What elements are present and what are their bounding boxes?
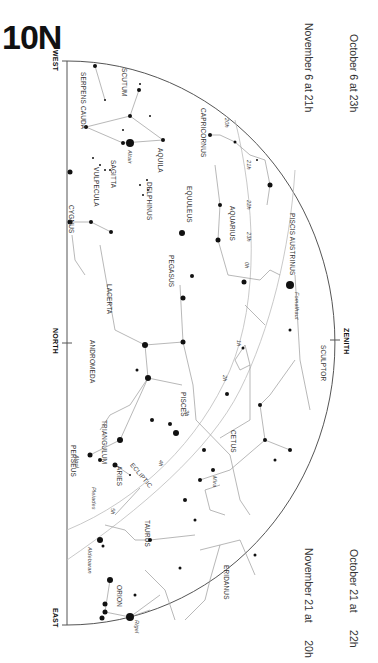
label-cygnus: CYGNUS: [68, 205, 75, 234]
ecliptic-lines: [67, 120, 295, 560]
label-capricornus: CAPRICORNUS: [200, 108, 207, 157]
star-aldebaran: Aldebaran: [87, 547, 93, 574]
label-orion: ORION: [116, 585, 123, 607]
label-sculptor: SCULPTOR: [320, 345, 327, 381]
ecliptic-mark: 1h: [236, 340, 242, 347]
label-cetus: CETUS: [230, 430, 237, 453]
label-equuleus: EQUULEUS: [186, 186, 193, 223]
label-sagitta: SAGITTA: [110, 160, 117, 188]
ecliptic-mark: 3h: [184, 410, 190, 417]
star-altair: Altair: [127, 150, 133, 164]
direction-west: WEST: [52, 50, 59, 71]
label-aries: ARIES: [116, 466, 123, 486]
label-pegasus: PEGASUS: [168, 255, 175, 287]
ecliptic-mark: 0h: [244, 262, 250, 269]
star-rigel: Rigel: [134, 620, 140, 634]
ecliptic-mark: 23h: [246, 232, 252, 242]
label-aquila: AQUILA: [157, 148, 164, 173]
ecliptic-mark: 4h: [158, 460, 164, 467]
label-andromeda: ANDROMEDA: [89, 340, 96, 383]
direction-zenith: ZENITH: [343, 328, 350, 354]
star-pleiades: Pleiades: [91, 487, 97, 510]
star-mira: Mira: [212, 476, 218, 488]
direction-east: EAST: [52, 608, 59, 627]
label-eridanus: ERIDANUS: [223, 565, 230, 600]
label-aquarius: AQUARIUS: [229, 206, 236, 241]
ecliptic-mark: 5h: [110, 508, 116, 515]
label-triangulum: TRIANGULUM: [101, 420, 108, 464]
label-piscis-austrinus: PISCIS AUSTRINUS: [289, 213, 296, 276]
ecliptic-mark: 2h: [222, 375, 228, 382]
star-algol: Algol: [74, 455, 80, 468]
label-delphinus: DELPHINUS: [146, 182, 153, 220]
label-vulpecula: VULPECULA: [93, 167, 100, 207]
star-fomalhaut: Fomalhaut: [294, 292, 300, 320]
direction-north: NORTH: [52, 328, 59, 354]
label-taurus: TAURUS: [144, 520, 151, 547]
label-serpens: SERPENS CAUDA: [80, 72, 87, 129]
ecliptic-mark: 21h: [246, 160, 252, 170]
label-scutum: SCUTUM: [121, 68, 128, 97]
constellation-lines: [70, 66, 310, 620]
ecliptic-mark: 22h: [246, 200, 252, 210]
label-lacerta: LACERTA: [106, 284, 113, 314]
ecliptic-mark: 20h: [224, 118, 230, 128]
